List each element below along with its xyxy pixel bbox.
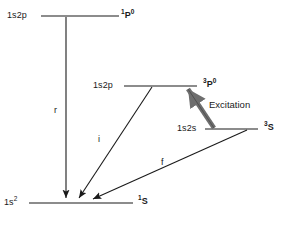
transition-label-f: f	[161, 157, 164, 167]
energy-level-diagram: 1s2p 1P0 1s2p 3P0 1s2s 3S 1s2 1S r i f E…	[0, 0, 292, 228]
transition-label-i-text: i	[98, 134, 100, 144]
level-label-1s2p-triplet: 1s2p	[93, 80, 113, 90]
excitation-label-text: Excitation	[209, 99, 250, 110]
transition-label-r: r	[54, 105, 57, 115]
term-post-superscript: 0	[213, 77, 217, 84]
excitation-label: Excitation	[209, 99, 250, 110]
term-letter: S	[142, 196, 148, 206]
level-label-1s2s-triplet: 1s2s	[177, 123, 196, 133]
config-text: 1s2s	[177, 123, 196, 133]
diagram-canvas	[0, 0, 292, 228]
term-label-1s2s-triplet: 3S	[264, 122, 274, 132]
transition-arrow-f	[93, 130, 247, 199]
level-label-1s2p-singlet: 1s2p	[7, 10, 27, 20]
config-superscript: 2	[14, 195, 18, 202]
term-post-superscript: 0	[131, 8, 135, 15]
term-label-ground: 1S	[138, 196, 148, 206]
transition-arrow-i	[79, 87, 152, 198]
config-text: 1s2p	[93, 80, 113, 90]
config-text: 1s2	[4, 197, 17, 207]
config-text: 1s2p	[7, 10, 27, 20]
term-letter: S	[268, 122, 274, 132]
term-label-1s2p-triplet: 3P0	[203, 79, 216, 89]
term-label-1s2p-singlet: 1P0	[121, 10, 134, 20]
transition-label-i: i	[98, 134, 100, 144]
transition-label-f-text: f	[161, 157, 164, 167]
level-label-ground: 1s2	[4, 197, 17, 207]
transition-label-r-text: r	[54, 105, 57, 115]
